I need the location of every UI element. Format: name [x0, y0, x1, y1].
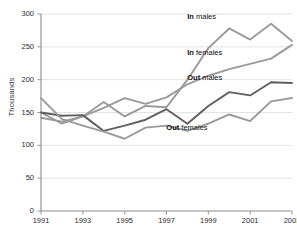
series-label-prefix: Out [187, 73, 200, 82]
y-tick-label: 250 [8, 42, 34, 51]
series-line-in-males [41, 24, 292, 122]
y-tick-label: 150 [8, 108, 34, 117]
series-label-prefix: In [187, 48, 194, 57]
y-tick-label: 300 [8, 9, 34, 18]
x-tick-label: 1995 [110, 216, 140, 225]
series-label-rest: males [194, 12, 216, 21]
series-label-rest: females [194, 48, 222, 57]
series-lines [41, 24, 292, 139]
x-tick-label: 2003 [277, 216, 297, 225]
x-tick-label: 2001 [235, 216, 265, 225]
x-tick-label: 1997 [152, 216, 182, 225]
x-tick-label: 1991 [26, 216, 56, 225]
plot-area [0, 0, 297, 238]
series-label-rest: males [200, 73, 222, 82]
axis-lines [38, 14, 293, 215]
line-chart: Thousands 050100150200250300 19911993199… [0, 0, 297, 238]
series-annotation-out-females: Out females [166, 123, 207, 132]
y-tick-label: 50 [8, 173, 34, 182]
series-annotation-in-females: In females [187, 48, 222, 57]
y-axis-title: Thousands [0, 62, 18, 132]
series-label-prefix: In [187, 12, 194, 21]
y-tick-label: 0 [8, 206, 34, 215]
y-tick-label: 200 [8, 75, 34, 84]
gridlines [41, 14, 292, 211]
series-label-rest: females [179, 123, 207, 132]
series-label-prefix: Out [166, 123, 179, 132]
y-tick-label: 100 [8, 140, 34, 149]
x-tick-label: 1999 [193, 216, 223, 225]
x-tick-label: 1993 [68, 216, 98, 225]
series-annotation-out-males: Out males [187, 73, 222, 82]
series-line-in-females [41, 45, 292, 124]
series-annotation-in-males: In males [187, 12, 216, 21]
